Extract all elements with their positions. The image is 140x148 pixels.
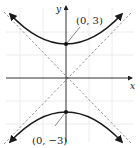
x-axis-label: x xyxy=(130,81,135,91)
hyperbola-diagram: x y (0, 3) (0, −3) xyxy=(0,0,140,148)
vertex-lower-label: (0, −3) xyxy=(32,135,67,146)
vertex-upper-leader xyxy=(67,27,80,43)
vertex-upper-label: (0, 3) xyxy=(76,15,103,26)
y-axis-label: y xyxy=(55,4,62,14)
